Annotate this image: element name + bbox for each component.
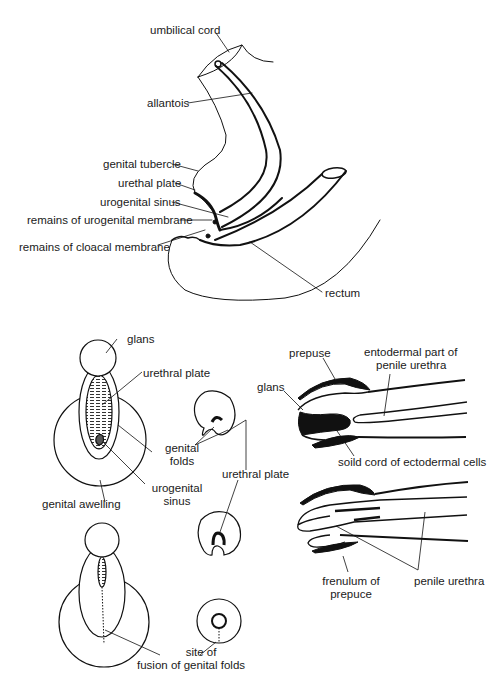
glans-late-outline: [298, 515, 467, 531]
urethra-lumen: [212, 614, 226, 628]
label-site-of-fusion-1: site of: [136, 646, 266, 659]
label-genital-swelling: genital awelling: [42, 498, 121, 511]
label-urethral-plate: urethral plate: [143, 367, 210, 380]
label-remains-urogenital-membrane: remains of urogenital membrane: [27, 214, 193, 227]
label-urogenital-sinus-1: urogenital: [146, 482, 208, 495]
urogenital-sinus-opening: [96, 434, 104, 445]
longitudinal-section-late: [298, 482, 468, 572]
longitudinal-section-early: [284, 358, 467, 456]
label-urethral-plate-cross: urethral plate: [222, 468, 289, 481]
early-stage-view: [54, 339, 152, 502]
label-urogenital-sinus: urogenital sinus: [100, 196, 181, 209]
cross-sections: [194, 391, 246, 655]
glans-outline: [298, 392, 368, 410]
label-solid-cord: soild cord of ectodermal cells: [338, 456, 486, 469]
label-glans-section: glans: [257, 381, 285, 394]
allantois-tube: [216, 66, 267, 212]
label-genital-folds-1: genital: [160, 442, 204, 455]
label-frenulum-1: frenulum of: [316, 575, 386, 588]
cross-section-1: [194, 391, 235, 435]
sagittal-view: [158, 33, 380, 300]
leader-lines-top: [158, 33, 322, 292]
cross-section-3: [197, 599, 241, 643]
urethral-plate-remnant: [98, 557, 106, 587]
label-genital-folds-2: folds: [160, 455, 204, 468]
label-entodermal-part-1: entodermal part of: [364, 346, 457, 359]
label-genital-tubercle: genital tubercle: [103, 158, 181, 171]
label-frenulum-2: prepuce: [316, 588, 386, 601]
label-glans: glans: [127, 333, 155, 346]
label-urethal-plate: urethal plate: [118, 177, 181, 190]
prepuce-upper: [298, 378, 370, 400]
glans-early: [80, 340, 116, 376]
label-urogenital-sinus-2: sinus: [146, 495, 208, 508]
entodermal-urethra: [353, 402, 467, 423]
solid-cord: [298, 412, 350, 435]
label-penile-urethra: penile urethra: [414, 575, 484, 588]
rectum-tube: [215, 174, 322, 240]
body-contour: [193, 77, 226, 210]
label-entodermal-part-2: penile urethra: [376, 359, 446, 372]
glans-late: [85, 523, 119, 557]
label-umbilical-cord: umbilical cord: [150, 24, 220, 37]
label-remains-cloacal-membrane: remains of cloacal membrane: [19, 241, 170, 254]
label-site-of-fusion-2: fusion of genital folds: [137, 659, 245, 672]
label-rectum: rectum: [325, 287, 360, 300]
prepuce-lower: [312, 436, 360, 448]
label-prepuse: prepuse: [289, 347, 331, 360]
rectum-opening: [321, 166, 346, 179]
label-allantois: allantois: [147, 97, 189, 110]
